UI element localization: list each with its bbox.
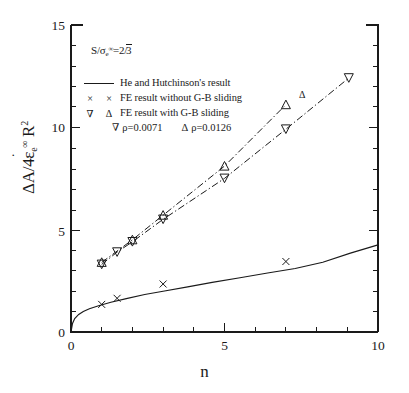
legend-row-he-hutchinson: He and Hutchinson's result — [82, 76, 242, 91]
xtick-label-5: 5 — [221, 338, 228, 353]
marker-delta — [281, 100, 290, 109]
legend-delta-swatch: Δ — [98, 109, 120, 119]
y-axis-title-epsilon: ε — [19, 152, 38, 159]
marker-nabla — [344, 74, 353, 83]
axis-right — [366, 25, 378, 332]
annotation-equals: =2 — [113, 44, 124, 56]
legend-row-fe-with-sliding: ∇ Δ FE result with G-B sliding — [82, 106, 242, 121]
legend-label-he-hutchinson: He and Hutchinson's result — [120, 78, 230, 89]
stray-delta-icon: Δ — [299, 90, 305, 100]
legend-rho-delta-label: ρ=0.0126 — [191, 122, 231, 133]
tick-labels: 15 10 5 0 0 5 10 — [52, 18, 386, 353]
y-axis-title-lead: ΔA/4 — [19, 159, 38, 194]
legend-rho-nabla-label: ρ=0.0071 — [122, 122, 162, 133]
legend-label-fe-with-sliding: FE result with G-B sliding — [120, 108, 229, 119]
y-axis-title-tail: R — [19, 126, 38, 137]
chart-figure: 15 10 5 0 0 5 10 S/σe∞=2/3 He and Hutchi… — [0, 0, 409, 393]
series-cross-markers — [98, 258, 289, 308]
legend: He and Hutchinson's result × × FE result… — [82, 76, 242, 121]
marker-x — [160, 281, 167, 288]
xtick-label-10: 10 — [371, 338, 385, 353]
annotation-radicand: 3 — [126, 44, 132, 57]
y-axis-title: ΔA/4εe∞ R2 — [20, 83, 39, 233]
legend-cross-swatch-left: × — [82, 94, 98, 104]
legend-solid-line-swatch — [82, 83, 120, 84]
legend-rho-delta-icon: Δ — [181, 122, 188, 133]
ytick-label-5: 5 — [58, 224, 65, 239]
y-axis-title-epsilon-sup: ∞ — [19, 141, 30, 148]
legend-rho-row: ∇ ρ=0.0071 Δ ρ=0.0126 — [112, 121, 231, 133]
legend-cross-swatch: × — [98, 94, 120, 104]
x-major-ticks — [71, 323, 378, 332]
series-he-hutchinson-curve — [71, 245, 378, 332]
y-axis-title-tail-sup: 2 — [19, 121, 30, 126]
x-axis-title: n — [0, 363, 409, 380]
xtick-label-0: 0 — [68, 338, 75, 353]
legend-nabla-swatch: ∇ — [82, 109, 98, 119]
legend-row-fe-no-sliding: × × FE result without G-B sliding — [82, 91, 242, 106]
annotation-lead: S/ — [91, 44, 100, 56]
annotation-stress-ratio: S/σe∞=2/3 — [91, 44, 132, 58]
ytick-label-15: 15 — [52, 18, 66, 33]
plot-canvas: 15 10 5 0 0 5 10 — [0, 0, 409, 393]
ytick-label-0: 0 — [58, 325, 65, 340]
legend-rho-nabla-icon: ∇ — [112, 121, 119, 133]
ytick-label-10: 10 — [52, 120, 66, 135]
marker-x — [282, 258, 289, 265]
legend-label-fe-no-sliding: FE result without G-B sliding — [120, 93, 242, 104]
